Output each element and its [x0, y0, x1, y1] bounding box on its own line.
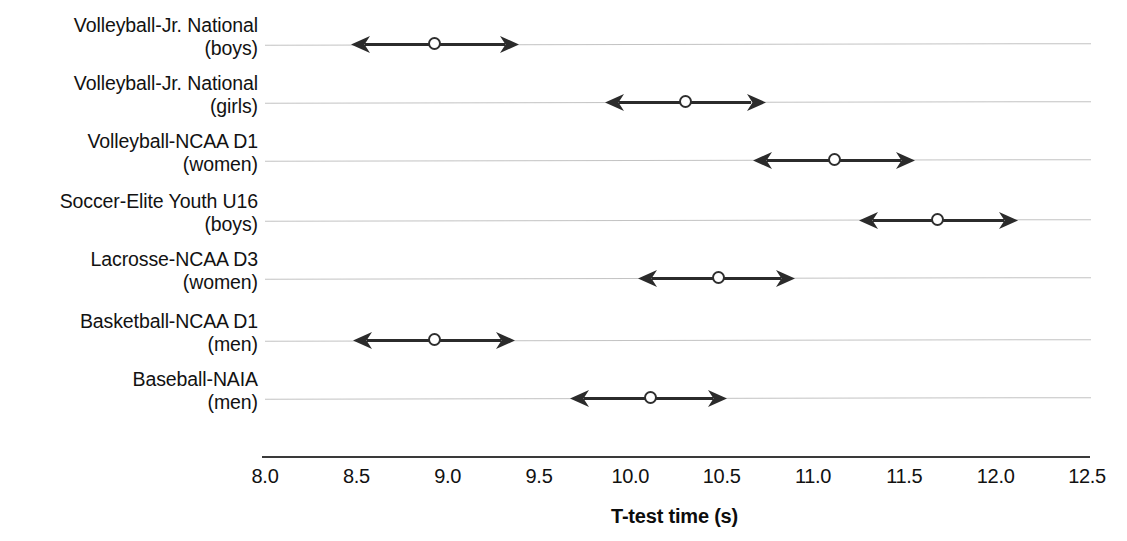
lower-bound-line	[873, 219, 938, 222]
data-series-row-6	[0, 386, 1127, 410]
lower-bound-line	[767, 159, 835, 162]
data-point-marker	[712, 271, 725, 284]
arrow-left-icon	[605, 92, 627, 113]
data-series-row-3	[0, 208, 1127, 232]
arrow-left-icon	[638, 268, 660, 289]
arrow-right-icon	[744, 92, 766, 113]
data-series-row-1	[0, 90, 1127, 114]
lower-bound-line	[619, 101, 685, 104]
x-tick-8.5: 8.5	[343, 465, 370, 488]
arrow-left-icon	[351, 34, 373, 55]
arrow-right-icon	[497, 34, 519, 55]
x-tick-9.5: 9.5	[526, 465, 553, 488]
arrow-right-icon	[893, 150, 915, 171]
x-axis-title-text: T-test time (s)	[611, 505, 738, 528]
lower-bound-line	[367, 339, 435, 342]
x-tick-12.0: 12.0	[977, 465, 1015, 488]
lower-bound-line	[652, 277, 718, 280]
data-series-row-5	[0, 328, 1127, 352]
data-series-row-0	[0, 32, 1127, 56]
data-point-marker	[931, 213, 944, 226]
upper-bound-line	[685, 101, 751, 104]
data-series-row-2	[0, 148, 1127, 172]
data-point-marker	[679, 95, 692, 108]
data-series-row-4	[0, 266, 1127, 290]
x-tick-11.5: 11.5	[886, 465, 922, 488]
t-test-time-chart: Volleyball-Jr. National(boys)Volleyball-…	[0, 0, 1127, 541]
arrow-right-icon	[705, 388, 727, 409]
upper-bound-line	[435, 339, 501, 342]
lower-bound-line	[365, 43, 435, 46]
arrow-right-icon	[773, 268, 795, 289]
x-axis-title: T-test time (s)	[0, 505, 1127, 528]
arrow-left-icon	[753, 150, 775, 171]
upper-bound-line	[650, 397, 713, 400]
x-tick-12.5: 12.5	[1068, 465, 1106, 488]
arrow-right-icon	[996, 210, 1018, 231]
x-tick-10.0: 10.0	[611, 465, 649, 488]
data-point-marker	[428, 333, 441, 346]
x-tick-11.0: 11.0	[795, 465, 831, 488]
upper-bound-line	[718, 277, 781, 280]
x-tick-8.0: 8.0	[252, 465, 279, 488]
upper-bound-line	[835, 159, 901, 162]
data-point-marker	[644, 391, 657, 404]
arrow-left-icon	[859, 210, 881, 231]
data-point-marker	[828, 153, 841, 166]
upper-bound-line	[937, 219, 1003, 222]
x-tick-9.0: 9.0	[434, 465, 461, 488]
lower-bound-line	[584, 397, 650, 400]
x-tick-10.5: 10.5	[703, 465, 741, 488]
arrow-right-icon	[493, 330, 515, 351]
upper-bound-line	[435, 43, 505, 46]
arrow-left-icon	[353, 330, 375, 351]
x-axis-line	[262, 456, 1090, 458]
plot-area	[0, 0, 1127, 541]
arrow-left-icon	[570, 388, 592, 409]
data-point-marker	[428, 37, 441, 50]
